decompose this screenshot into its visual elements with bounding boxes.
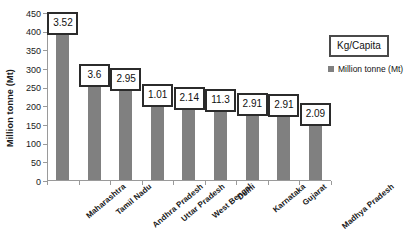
- bar-value-callout: 1.01: [142, 84, 173, 107]
- bar-slot: [79, 13, 111, 180]
- bar-slot: [110, 13, 142, 180]
- legend-entry: Million tonne (Mt): [328, 64, 403, 74]
- y-axis-tick-label: 400: [26, 27, 41, 37]
- bar-value-callout: 3.52: [47, 12, 78, 35]
- x-axis-category-label: Delhi: [235, 182, 256, 202]
- y-axis-title: Million tonne (Mt): [2, 48, 18, 168]
- bar-value-callout: 2.91: [268, 94, 299, 117]
- bar[interactable]: [214, 108, 227, 180]
- bar[interactable]: [88, 83, 101, 180]
- y-axis-tick-label: 450: [26, 9, 41, 19]
- y-axis-tick-label: 150: [26, 121, 41, 131]
- bar-value-callout: 2.91: [237, 93, 268, 116]
- y-axis-tick-label: 350: [26, 46, 41, 56]
- bar-value-callout: 11.3: [205, 89, 236, 112]
- y-axis-tick-label: 50: [31, 158, 41, 168]
- bar-value-callout: 2.14: [174, 87, 205, 110]
- bar[interactable]: [56, 31, 69, 180]
- bar-value-callout: 3.6: [79, 64, 110, 87]
- bar[interactable]: [119, 87, 132, 180]
- bar-slot: [47, 13, 79, 180]
- legend-entry-label: Million tonne (Mt): [338, 64, 403, 74]
- x-axis-category-labels: MaharashtraTamil NaduAndhra PradeshUttar…: [47, 182, 331, 242]
- y-axis-title-text: Million tonne (Mt): [5, 69, 15, 147]
- legend-color-swatch: [328, 66, 334, 72]
- bar[interactable]: [151, 103, 164, 180]
- bar[interactable]: [309, 122, 322, 180]
- bar[interactable]: [246, 112, 259, 180]
- bar-chart: Million tonne (Mt) 450400350300250200150…: [0, 0, 417, 242]
- bar-value-callout: 2.09: [300, 103, 331, 126]
- bar-slot: [299, 13, 331, 180]
- legend-title: Kg/Capita: [329, 35, 389, 57]
- x-axis-category-label: Madhya Pradesh: [340, 182, 396, 231]
- y-axis-tick-label: 100: [26, 139, 41, 149]
- bar[interactable]: [277, 113, 290, 180]
- y-axis-tick-label: 0: [36, 177, 41, 187]
- x-axis-tick-mark: [331, 181, 332, 185]
- y-axis-tick-label: 200: [26, 102, 41, 112]
- y-axis-tick-label: 300: [26, 65, 41, 75]
- x-axis-line: [47, 180, 331, 181]
- bar-value-callout: 2.95: [110, 68, 141, 91]
- y-axis-tick-label: 250: [26, 83, 41, 93]
- bar[interactable]: [182, 106, 195, 180]
